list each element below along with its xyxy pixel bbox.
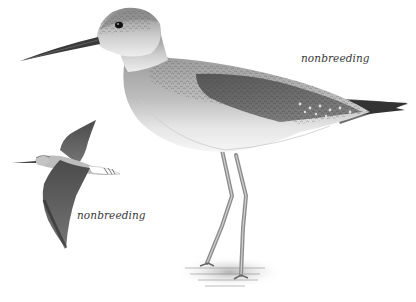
bird-illustration [0,0,416,302]
flying-bird [12,120,120,248]
eye-icon [115,22,123,29]
water-reflection [175,256,285,288]
flying-bird-label: nonbreeding [77,209,146,221]
standing-bird-label: nonbreeding [301,52,370,64]
